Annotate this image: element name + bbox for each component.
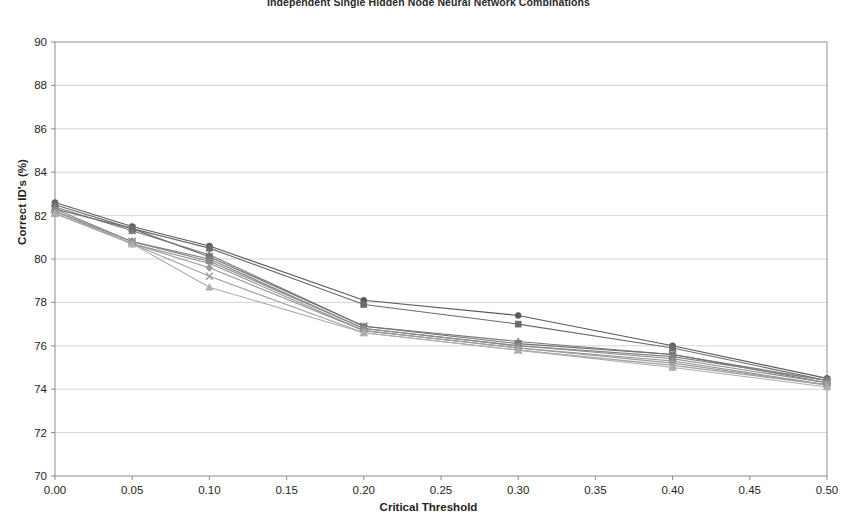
data-point-circle [515,312,521,318]
data-point-square [670,345,676,351]
data-point-square [361,302,367,308]
plot-area [0,0,857,531]
data-point-square [206,245,212,251]
data-point-square [515,321,521,327]
chart-container: Independent Single Hidden Node Neural Ne… [0,0,857,531]
